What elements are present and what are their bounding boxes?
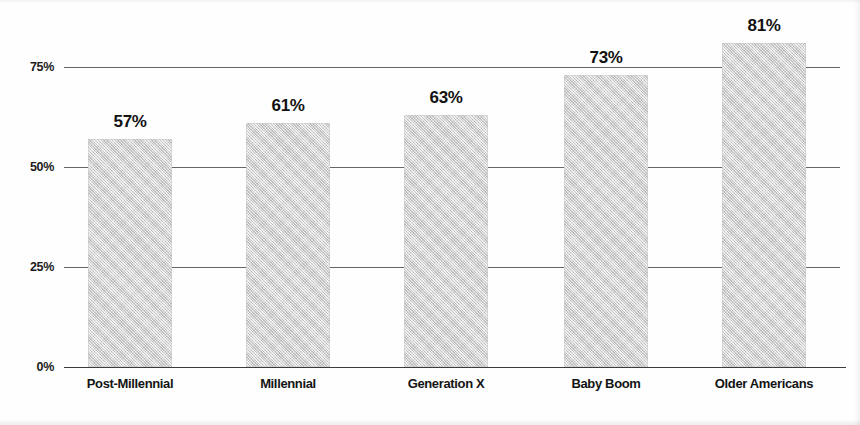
bar-value-millennial: 61% [228,96,348,116]
bar-value-post-millennial: 57% [70,112,190,132]
bar-value-baby-boom: 73% [546,48,666,68]
x-axis-label-post-millennial: Post-Millennial [50,376,210,391]
x-axis-label-older-americans: Older Americans [684,376,844,391]
y-axis-tick-label-50: 50% [0,160,54,174]
bar-value-generation-x: 63% [386,88,506,108]
x-axis-label-millennial: Millennial [208,376,368,391]
bar-value-older-americans: 81% [704,16,824,36]
plot-area: 75% 50% 25% 0% 57% 61% 63% 73% 81% Post-… [0,0,860,425]
bar-post-millennial[interactable] [88,139,172,367]
y-axis-tick-label-75: 75% [0,60,54,74]
bar-older-americans[interactable] [722,43,806,367]
gridline-0-baseline [64,367,846,368]
bar-chart: 75% 50% 25% 0% 57% 61% 63% 73% 81% Post-… [0,0,860,425]
bar-baby-boom[interactable] [564,75,648,367]
bar-generation-x[interactable] [404,115,488,367]
x-axis-label-baby-boom: Baby Boom [526,376,686,391]
bar-millennial[interactable] [246,123,330,367]
y-axis-tick-label-0: 0% [0,360,54,374]
x-axis-label-generation-x: Generation X [366,376,526,391]
y-axis-tick-label-25: 25% [0,260,54,274]
